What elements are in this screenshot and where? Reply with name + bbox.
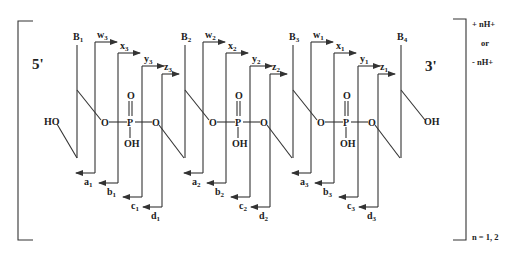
top-fragment-label: y2 [252,53,261,66]
top-fragment-label: w2 [205,29,216,42]
charge-minus-label: - nH+ [472,57,493,67]
bottom-fragment-label: c1 [131,200,139,213]
top-fragment-label: w3 [97,29,108,42]
phosphoryl-oxygen: O [343,90,351,101]
nucleotide-units: B1OPOOOHw3a1x3b1y3c1z3d1B2OPOOOHw2a2x2b2… [73,29,400,223]
bottom-fragment-label: d1 [151,210,161,223]
right-bracket [453,19,466,240]
bottom-fragment-label: b2 [215,186,225,199]
top-fragment-label: z2 [272,61,280,74]
bridge-oxygen-3: O [152,117,160,128]
charge-plus-label: + nH+ [472,19,495,29]
three-prime-label: 3' [425,58,437,74]
phosphate-hydroxyl: OH [340,138,356,149]
phosphoryl-oxygen: O [235,90,243,101]
bottom-fragment-label: b3 [323,186,333,199]
bridge-oxygen-3: O [368,117,376,128]
phosphorus: P [127,117,133,128]
nucleotide-unit-1: B1OPOOOHw3a1x3b1y3c1z3d1 [73,29,184,223]
top-fragment-label: z3 [164,61,172,74]
bottom-fragment-label: a3 [300,176,309,189]
bottom-fragment-label: c2 [239,200,247,213]
base-label-4: B4 [397,31,408,44]
nucleotide-unit-3: B3OPOOOHw1a3x1b3y1c3z1d3 [289,29,400,223]
bridge-oxygen-5: O [101,117,109,128]
terminal-nucleoside: B4 OH [397,31,440,158]
phosphate-hydroxyl: OH [232,138,248,149]
n-values-label: n = 1, 2 [472,232,499,242]
base-label-1: B1 [73,31,84,44]
top-fragment-label: x2 [228,40,237,53]
phosphoryl-oxygen: O [127,90,135,101]
bridge-oxygen-5: O [317,117,325,128]
bottom-fragment-label: d2 [259,210,269,223]
top-fragment-label: w1 [313,29,324,42]
top-fragment-label: y3 [144,53,153,66]
phosphate-hydroxyl: OH [124,138,140,149]
top-fragment-label: z1 [380,61,388,74]
top-fragment-label: x3 [120,40,129,53]
bottom-fragment-label: d3 [367,210,377,223]
base-label-2: B2 [181,31,192,44]
base-label-3: B3 [289,31,300,44]
phosphorus: P [235,117,241,128]
phosphorus: P [343,117,349,128]
charge-or-label: or [481,38,489,48]
bottom-fragment-label: c3 [347,200,355,213]
nucleotide-unit-2: B2OPOOOHw2a2x2b2y2c2z2d2 [181,29,292,223]
fragmentation-diagram: 5' 3' + nH+ or - nH+ n = 1, 2 HO B1OPOOO… [0,0,514,255]
three-prime-hydroxyl: OH [424,116,440,127]
bridge-oxygen-5: O [209,117,217,128]
bridge-oxygen-3: O [260,117,268,128]
bottom-fragment-label: b1 [107,186,117,199]
five-prime-label: 5' [32,56,44,72]
bottom-fragment-label: a1 [84,176,93,189]
five-prime-bond [57,124,77,158]
top-fragment-label: y1 [360,53,369,66]
left-bracket [18,21,33,240]
bottom-fragment-label: a2 [192,176,201,189]
top-fragment-label: x1 [336,40,345,53]
